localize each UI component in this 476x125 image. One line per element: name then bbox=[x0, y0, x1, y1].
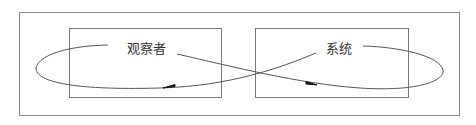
diagram-canvas bbox=[0, 0, 476, 125]
system-box bbox=[256, 29, 409, 98]
observer-label: 观察者 bbox=[127, 42, 166, 55]
system-label: 系统 bbox=[326, 42, 352, 55]
outer-frame bbox=[20, 13, 460, 116]
edge-observer-to-system bbox=[36, 45, 316, 88]
